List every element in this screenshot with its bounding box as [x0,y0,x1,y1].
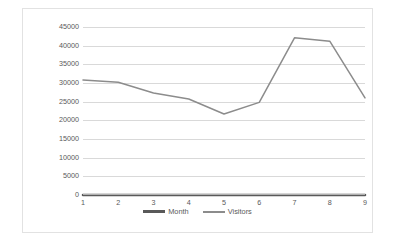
y-axis-tick-labels: 0500010000150002000025000300003500040000… [31,27,79,195]
x-axis-tick-label: 1 [73,199,93,206]
chart-legend: Month Visitors [22,208,373,215]
y-axis-tick-label: 25000 [33,98,79,105]
x-axis-tick-label: 9 [355,199,375,206]
x-axis-tick-label: 7 [285,199,305,206]
x-axis-tick-label: 2 [108,199,128,206]
legend-item-month[interactable]: Month [143,208,189,215]
legend-swatch-month-icon [143,210,165,213]
x-axis-tick-label: 5 [214,199,234,206]
y-axis-tick-label: 35000 [33,60,79,67]
legend-swatch-visitors-icon [203,211,225,213]
y-axis-tick-label: 45000 [33,23,79,30]
y-axis-tick-label: 30000 [33,79,79,86]
y-axis-tick-label: 20000 [33,116,79,123]
y-axis-tick-label: 15000 [33,135,79,142]
legend-label-visitors: Visitors [228,208,252,215]
x-axis-tick-label: 3 [144,199,164,206]
y-axis-tick-label: 10000 [33,154,79,161]
y-axis-tick-label: 0 [33,191,79,198]
plot-area [83,27,365,195]
chart-frame: 0500010000150002000025000300003500040000… [22,8,373,233]
x-axis-tick-label: 4 [179,199,199,206]
y-axis-tick-label: 40000 [33,42,79,49]
x-axis-tick-label: 6 [249,199,269,206]
series-line-visitors [83,38,365,114]
y-axis-tick-label: 5000 [33,172,79,179]
x-axis-line [83,194,365,195]
legend-label-month: Month [168,208,189,215]
x-axis-tick-label: 8 [320,199,340,206]
legend-item-visitors[interactable]: Visitors [203,208,252,215]
series-lines [83,27,365,195]
